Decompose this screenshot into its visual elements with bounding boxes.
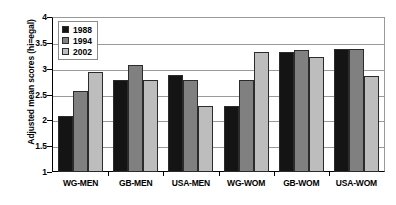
bar bbox=[58, 116, 73, 172]
bar bbox=[73, 91, 88, 172]
y-axis-tick-label: 4 bbox=[15, 12, 47, 22]
legend-item: 2002 bbox=[62, 46, 92, 57]
bar bbox=[254, 52, 269, 172]
bar-group bbox=[168, 18, 213, 172]
bar bbox=[349, 49, 364, 172]
bar bbox=[364, 76, 379, 172]
y-axis-tick-label: 1 bbox=[15, 167, 47, 177]
x-axis-tick-mark bbox=[108, 172, 109, 176]
bar bbox=[128, 65, 143, 173]
bar bbox=[294, 50, 309, 172]
bar bbox=[279, 52, 294, 172]
bar bbox=[183, 80, 198, 172]
x-axis-tick-mark bbox=[274, 172, 275, 176]
y-axis-tick-label: 2 bbox=[15, 115, 47, 125]
bar bbox=[113, 80, 128, 172]
bar-group bbox=[224, 18, 269, 172]
bar bbox=[168, 75, 183, 172]
y-axis-tick-label: 2.5 bbox=[15, 90, 47, 100]
bar-group bbox=[113, 18, 158, 172]
legend-item: 1988 bbox=[62, 24, 92, 35]
legend-swatch-icon bbox=[62, 26, 69, 33]
legend-label: 1988 bbox=[73, 25, 92, 35]
x-axis-tick-label: USA-WOM bbox=[316, 178, 396, 188]
bar bbox=[309, 57, 324, 172]
bar-group bbox=[334, 18, 379, 172]
bars-layer bbox=[53, 18, 384, 172]
bar-group bbox=[279, 18, 324, 172]
y-axis-tick-label: 1.5 bbox=[15, 141, 47, 151]
bar bbox=[143, 80, 158, 172]
legend-swatch-icon bbox=[62, 48, 69, 55]
y-axis-tick-label: 3 bbox=[15, 64, 47, 74]
legend: 198819942002 bbox=[58, 21, 98, 60]
legend-label: 2002 bbox=[73, 47, 92, 57]
legend-swatch-icon bbox=[62, 37, 69, 44]
bar-chart: Adjusted mean scores (hi=egal) 11.522.53… bbox=[0, 0, 396, 205]
legend-item: 1994 bbox=[62, 35, 92, 46]
bar bbox=[334, 49, 349, 172]
bar bbox=[224, 106, 239, 172]
legend-label: 1994 bbox=[73, 36, 92, 46]
bar bbox=[88, 72, 103, 172]
x-axis-tick-mark bbox=[329, 172, 330, 176]
bar bbox=[239, 80, 254, 172]
x-axis-tick-mark bbox=[219, 172, 220, 176]
y-axis-tick-label: 3.5 bbox=[15, 38, 47, 48]
x-axis-tick-mark bbox=[163, 172, 164, 176]
y-axis-tick-mark bbox=[47, 172, 52, 173]
bar bbox=[198, 106, 213, 172]
